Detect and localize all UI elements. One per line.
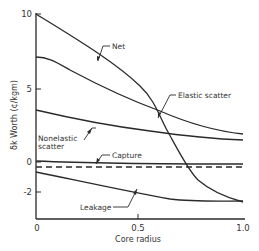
leakage-label: Leakage xyxy=(80,203,112,212)
y-axis-title: δk Worth (¢/kgm) xyxy=(10,80,19,150)
y-tick-label: 0 xyxy=(27,157,32,167)
y-tick-label: 5 xyxy=(27,84,32,94)
y-tick-label: 10 xyxy=(21,9,32,19)
nonelastic-arrow-icon xyxy=(87,128,92,134)
x-tick-label: 0 xyxy=(34,223,39,233)
chart: 10 5 0 -2 0 0.5 1.0 Core radius δk Worth… xyxy=(0,0,259,251)
capture-label: Capture xyxy=(112,151,142,160)
x-tick-label: 0.5 xyxy=(131,223,145,233)
net-curve xyxy=(36,14,243,202)
nonelastic-scatter-label-line2: scatter xyxy=(38,142,65,151)
x-tick-label: 1.0 xyxy=(236,223,250,233)
net-leader xyxy=(98,46,110,61)
y-tick-label: -2 xyxy=(24,187,32,197)
x-axis-title: Core radius xyxy=(115,235,161,244)
elastic-scatter-label: Elastic scatter xyxy=(178,91,232,100)
net-label: Net xyxy=(112,42,125,51)
leakage-curve xyxy=(36,172,243,201)
capture-curve xyxy=(36,161,243,164)
